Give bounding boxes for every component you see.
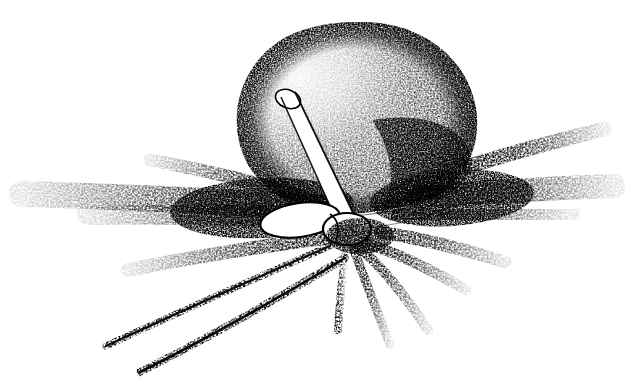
illustration-canvas [0,0,625,386]
cell-body [237,22,477,218]
illustration-figure [0,0,625,386]
spicule-hub [326,218,394,254]
